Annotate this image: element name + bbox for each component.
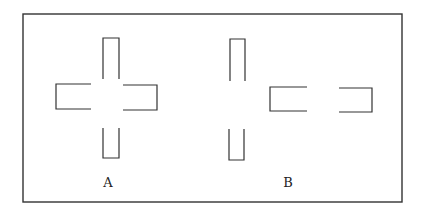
figure-a-left-arm [56,84,91,109]
diagram-canvas: A B [0,0,423,220]
figure-b-right-arm [339,88,372,112]
figure-b-left-arm [270,87,307,111]
figure-a-right-arm [123,85,157,110]
figure-a-top-arm [103,38,119,79]
outer-frame [23,14,402,202]
figure-a [56,38,157,158]
figure-b [229,39,372,160]
figure-b-top-arm [230,39,245,81]
figure-b-label: B [283,175,293,190]
figure-a-label: A [102,175,113,190]
figure-b-bottom-arm [229,129,244,160]
figure-a-bottom-arm [103,128,119,158]
